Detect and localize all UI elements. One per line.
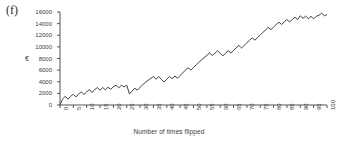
- y-tick-label: 4000: [22, 79, 52, 85]
- x-tick-label: 45: [183, 103, 189, 110]
- figure-panel-f: (f) € Number of times flipped 0200040006…: [0, 0, 338, 141]
- x-tick-label: 50: [196, 103, 202, 110]
- x-tick-label: 40: [169, 103, 175, 110]
- y-tick-label: 0: [22, 102, 52, 108]
- y-tick-label: 14000: [22, 21, 52, 27]
- x-tick-label: 25: [129, 103, 135, 110]
- x-tick-label: 0: [63, 107, 69, 110]
- y-tick-label: 12000: [22, 32, 52, 38]
- data-series-line: [60, 13, 327, 105]
- y-tick-label: 10000: [22, 44, 52, 50]
- x-tick-label: 80: [276, 103, 282, 110]
- y-tick-label: 8000: [22, 56, 52, 62]
- x-tick-label: 75: [263, 103, 269, 110]
- x-tick-label: 65: [236, 103, 242, 110]
- axis-lines: [60, 12, 327, 105]
- x-tick-label: 30: [143, 103, 149, 110]
- x-tick-label: 5: [76, 107, 82, 110]
- x-tick-label: 60: [223, 103, 229, 110]
- x-tick-label: 85: [289, 103, 295, 110]
- x-tick-label: 15: [103, 103, 109, 110]
- x-tick-label: 55: [209, 103, 215, 110]
- y-tick-label: 16000: [22, 9, 52, 15]
- x-tick-label: 35: [156, 103, 162, 110]
- x-tick-label: 10: [89, 103, 95, 110]
- x-tick-label: 70: [249, 103, 255, 110]
- x-tick-label: 90: [303, 103, 309, 110]
- x-tick-label: 20: [116, 103, 122, 110]
- x-tick-marks: [60, 105, 327, 108]
- y-tick-label: 6000: [22, 67, 52, 73]
- y-tick-label: 2000: [22, 90, 52, 96]
- x-tick-label: 95: [316, 103, 322, 110]
- x-tick-label: 100: [330, 100, 336, 110]
